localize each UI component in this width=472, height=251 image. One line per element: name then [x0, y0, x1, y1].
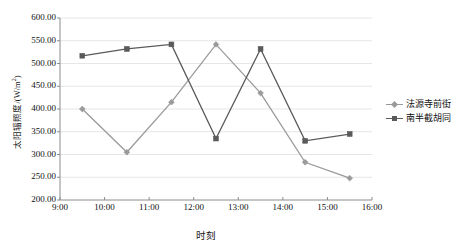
- x-tick-label: 12:00: [183, 203, 204, 212]
- legend-swatch-icon: [386, 113, 403, 123]
- data-point: [347, 132, 352, 137]
- x-tick-label: 9:00: [52, 203, 68, 212]
- legend-label: 南半截胡同: [406, 114, 451, 123]
- data-point: [169, 42, 174, 47]
- data-point: [124, 47, 129, 52]
- series-1: [79, 41, 352, 181]
- x-tick-label: 13:00: [228, 203, 249, 212]
- series-2: [80, 42, 352, 143]
- solar-irradiance-line-chart: 太阳辐照度/(W/m2) 600.00550.00500.00450.00400…: [0, 0, 472, 251]
- x-tick-label: 11:00: [139, 203, 159, 212]
- legend-item-1[interactable]: 法源寺前街: [386, 97, 472, 111]
- x-tick-label: 10:00: [94, 203, 115, 212]
- x-tick-label: 15:00: [317, 203, 338, 212]
- data-point: [80, 53, 85, 58]
- x-axis-tick-labels: 9:0010:0011:0012:0013:0014:0015:0016:00: [0, 203, 472, 219]
- legend-swatch-icon: [386, 99, 403, 109]
- series-line: [82, 44, 349, 178]
- x-tick-label: 16:00: [362, 203, 383, 212]
- data-point: [347, 175, 353, 181]
- legend-label: 法源寺前街: [406, 100, 451, 109]
- chart-legend: 法源寺前街南半截胡同: [386, 97, 472, 125]
- x-axis-title: 时刻: [196, 228, 216, 242]
- data-point: [303, 138, 308, 143]
- data-point: [214, 136, 219, 141]
- x-tick-label: 14:00: [273, 203, 294, 212]
- series-line: [82, 44, 349, 140]
- data-point: [258, 47, 263, 52]
- legend-item-2[interactable]: 南半截胡同: [386, 111, 472, 125]
